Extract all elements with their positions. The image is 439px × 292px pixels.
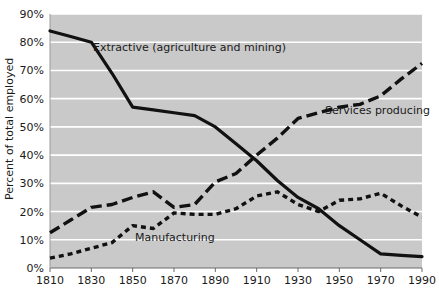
y-axis-tick-label: 30% [20,177,44,190]
x-axis-tick-label: 1990 [408,274,436,287]
series-annotation-services: Services producing [325,104,430,117]
x-axis-tick-label: 1890 [201,274,229,287]
x-axis-tick-label: 1970 [367,274,395,287]
y-axis-tick-label: 40% [20,149,44,162]
y-axis-tick-label: 80% [20,36,44,49]
x-axis-tick-label: 1850 [119,274,147,287]
chart-container: 0%10%20%30%40%50%60%70%80%90% 1810183018… [0,0,439,292]
employment-share-line-chart: 0%10%20%30%40%50%60%70%80%90% 1810183018… [0,0,439,292]
y-axis-tick-label: 10% [20,234,44,247]
series-annotation-extractive: Extractive (agriculture and mining) [93,41,286,54]
y-axis-tick-label: 50% [20,121,44,134]
x-axis-tick-label: 1950 [325,274,353,287]
y-axis-tick-label: 20% [20,206,44,219]
y-axis-tick-label: 60% [20,93,44,106]
y-axis-tick-label: 90% [20,8,44,21]
x-axis-tick-label: 1910 [243,274,271,287]
y-axis-tick-label: 70% [20,64,44,77]
y-axis-title: Percent of total employed [3,58,16,200]
x-axis-tick-label: 1930 [284,274,312,287]
x-axis-tick-label: 1870 [160,274,188,287]
x-axis-tick-label: 1830 [77,274,105,287]
x-axis-tick-label: 1810 [36,274,64,287]
series-annotation-manufacturing: Manufacturing [135,231,215,244]
